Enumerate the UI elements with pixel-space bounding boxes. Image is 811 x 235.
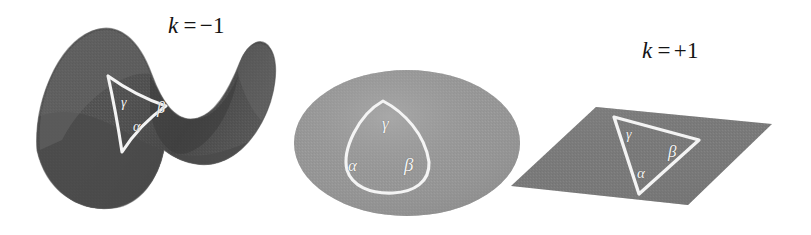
- caption-relation: =: [181, 13, 200, 38]
- caption-value: −1: [200, 13, 225, 38]
- panel-hyperbolic: k=−1: [0, 0, 300, 235]
- plane-surface: [495, 0, 811, 235]
- curvature-figure: k=−1 k: [0, 0, 811, 235]
- panel-euclidean: k=0: [495, 0, 811, 235]
- saddle-surface: [0, 0, 300, 235]
- sphere-shading: [294, 70, 520, 216]
- caption-hyperbolic: k=−1: [168, 14, 225, 37]
- caption-variable: k: [168, 13, 181, 38]
